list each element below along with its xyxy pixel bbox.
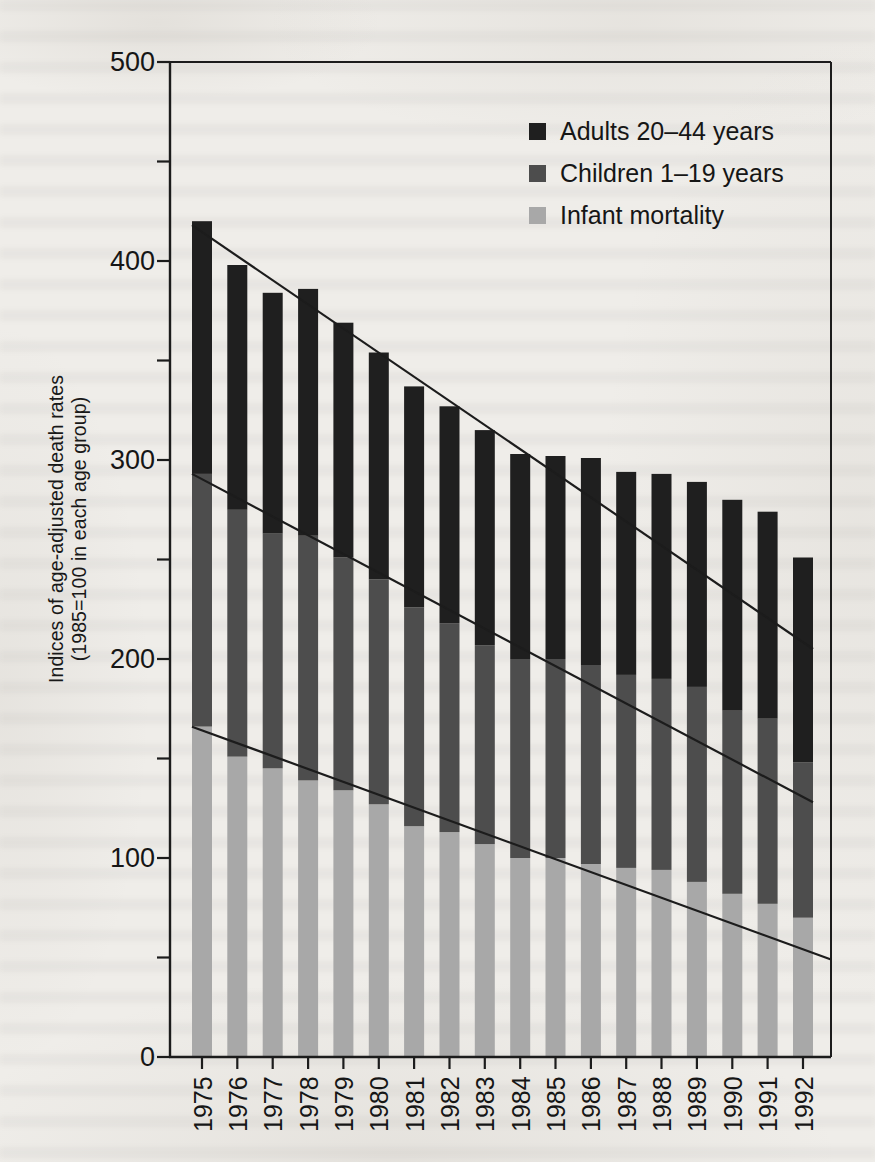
y-tick-label-500: 500 xyxy=(110,47,155,77)
x-label-1978: 1978 xyxy=(295,1076,323,1132)
trend-line-total-trend xyxy=(192,225,813,649)
bar-1978-adults-20-44-years xyxy=(298,289,318,536)
bar-1981-children-1-19-years xyxy=(404,607,424,826)
bar-1986-adults-20-44-years xyxy=(581,458,601,665)
bar-1980-infant-mortality xyxy=(369,804,389,1057)
bar-1980-children-1-19-years xyxy=(369,579,389,804)
x-label-1983: 1983 xyxy=(471,1076,499,1132)
bar-1982-adults-20-44-years xyxy=(440,406,460,623)
trend-line-children-boundary-trend xyxy=(192,474,813,802)
y-axis-title-line2: (1985=100 in each age group) xyxy=(68,329,91,729)
bar-1983-infant-mortality xyxy=(475,844,495,1057)
x-label-1984: 1984 xyxy=(507,1076,535,1132)
bar-1975-children-1-19-years xyxy=(192,474,212,727)
bar-1990-children-1-19-years xyxy=(722,711,742,894)
bar-1987-adults-20-44-years xyxy=(616,472,636,675)
bar-1991-infant-mortality xyxy=(758,904,778,1057)
x-label-1990: 1990 xyxy=(719,1076,747,1132)
bar-1979-adults-20-44-years xyxy=(333,323,353,558)
bar-1982-children-1-19-years xyxy=(440,623,460,832)
x-label-1988: 1988 xyxy=(648,1076,676,1132)
y-tick-label-400: 400 xyxy=(110,246,155,276)
legend-item-adults: Adults 20–44 years xyxy=(529,122,784,140)
x-label-1987: 1987 xyxy=(613,1076,641,1132)
x-label-1980: 1980 xyxy=(365,1076,393,1132)
bar-1986-children-1-19-years xyxy=(581,665,601,864)
legend-item-infant: Infant mortality xyxy=(529,206,784,224)
bar-1976-infant-mortality xyxy=(227,757,247,1058)
bar-1976-adults-20-44-years xyxy=(227,265,247,510)
y-tick-label-200: 200 xyxy=(110,644,155,674)
bar-1992-infant-mortality xyxy=(793,918,813,1057)
y-tick-label-100: 100 xyxy=(110,843,155,873)
y-axis-title-line1: Indices of age-adjusted death rates xyxy=(45,329,68,729)
x-label-1992: 1992 xyxy=(790,1076,818,1132)
legend-swatch-children xyxy=(529,165,546,182)
scanned-book-page: 0100200300400500197519761977197819791980… xyxy=(0,0,875,1162)
bar-1985-adults-20-44-years xyxy=(546,456,566,659)
x-label-1975: 1975 xyxy=(189,1076,217,1132)
bar-1976-children-1-19-years xyxy=(227,510,247,757)
bar-1979-infant-mortality xyxy=(333,790,353,1057)
bar-1981-adults-20-44-years xyxy=(404,386,424,607)
bar-1990-infant-mortality xyxy=(722,894,742,1057)
bar-1992-children-1-19-years xyxy=(793,763,813,918)
bar-1980-adults-20-44-years xyxy=(369,353,389,580)
bar-1985-infant-mortality xyxy=(546,858,566,1057)
bar-1990-adults-20-44-years xyxy=(722,500,742,711)
bar-1987-infant-mortality xyxy=(616,868,636,1057)
legend-item-children: Children 1–19 years xyxy=(529,164,784,182)
bar-1982-infant-mortality xyxy=(440,832,460,1057)
x-label-1991: 1991 xyxy=(754,1076,782,1132)
bar-1984-adults-20-44-years xyxy=(510,454,530,659)
x-label-1986: 1986 xyxy=(577,1076,605,1132)
bar-1988-children-1-19-years xyxy=(652,679,672,870)
bar-1988-adults-20-44-years xyxy=(652,474,672,679)
bar-1981-infant-mortality xyxy=(404,826,424,1057)
bar-1983-children-1-19-years xyxy=(475,645,495,844)
bar-1991-children-1-19-years xyxy=(758,719,778,904)
bar-1975-adults-20-44-years xyxy=(192,221,212,474)
bar-1978-infant-mortality xyxy=(298,780,318,1057)
y-tick-label-0: 0 xyxy=(140,1042,155,1072)
y-axis-title: Indices of age-adjusted death rates (198… xyxy=(45,329,91,729)
bar-1985-children-1-19-years xyxy=(546,659,566,858)
x-label-1989: 1989 xyxy=(683,1076,711,1132)
x-label-1977: 1977 xyxy=(259,1076,287,1132)
bar-1991-adults-20-44-years xyxy=(758,512,778,719)
chart-legend: Adults 20–44 years Children 1–19 years I… xyxy=(529,122,784,248)
bar-1977-children-1-19-years xyxy=(263,534,283,769)
bar-1989-adults-20-44-years xyxy=(687,482,707,687)
bar-1979-children-1-19-years xyxy=(333,558,353,791)
bar-1983-adults-20-44-years xyxy=(475,430,495,645)
legend-label-children: Children 1–19 years xyxy=(560,164,784,182)
bar-1977-adults-20-44-years xyxy=(263,293,283,534)
bar-1975-infant-mortality xyxy=(192,727,212,1057)
y-tick-label-300: 300 xyxy=(110,445,155,475)
legend-label-infant: Infant mortality xyxy=(560,206,724,224)
legend-label-adults: Adults 20–44 years xyxy=(560,122,774,140)
legend-swatch-adults xyxy=(529,123,546,140)
x-label-1981: 1981 xyxy=(401,1076,429,1132)
bar-1984-children-1-19-years xyxy=(510,659,530,858)
bar-1984-infant-mortality xyxy=(510,858,530,1057)
x-label-1976: 1976 xyxy=(224,1076,252,1132)
bar-1986-infant-mortality xyxy=(581,864,601,1057)
bar-1989-children-1-19-years xyxy=(687,687,707,882)
x-label-1985: 1985 xyxy=(542,1076,570,1132)
x-label-1982: 1982 xyxy=(436,1076,464,1132)
bar-1977-infant-mortality xyxy=(263,769,283,1058)
x-label-1979: 1979 xyxy=(330,1076,358,1132)
legend-swatch-infant xyxy=(529,207,546,224)
bar-1992-adults-20-44-years xyxy=(793,558,813,763)
bar-1978-children-1-19-years xyxy=(298,536,318,781)
